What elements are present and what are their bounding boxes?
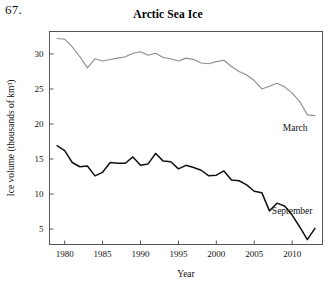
chart-figure: 67. Arctic Sea Ice 51015202530 198019851… xyxy=(0,0,336,287)
x-tick-label: 2000 xyxy=(207,249,226,259)
x-tick-label: 1985 xyxy=(94,249,113,259)
y-axis-ticks: 51015202530 xyxy=(35,49,54,234)
y-tick-label: 30 xyxy=(35,49,45,59)
x-tick-label: 1990 xyxy=(132,249,151,259)
line-chart-plot: 51015202530 1980198519901995200020052010… xyxy=(0,0,336,287)
y-tick-label: 5 xyxy=(39,224,44,234)
series-annotation-march: March xyxy=(283,123,308,133)
series-line-march xyxy=(57,39,315,116)
series-line-september xyxy=(57,146,315,240)
y-tick-label: 25 xyxy=(35,84,45,94)
x-axis-ticks: 1980198519901995200020052010 xyxy=(56,241,302,259)
series-annotation-september: September xyxy=(272,206,313,216)
y-tick-label: 10 xyxy=(35,189,45,199)
x-axis-title: Year xyxy=(177,269,195,279)
x-tick-label: 2005 xyxy=(245,249,264,259)
y-tick-label: 15 xyxy=(35,154,45,164)
y-tick-label: 20 xyxy=(35,119,45,129)
series-annotations: MarchSeptember xyxy=(272,123,313,216)
x-tick-label: 1995 xyxy=(169,249,188,259)
x-tick-label: 2010 xyxy=(283,249,302,259)
y-axis-title: Ice volume (thousands of km³) xyxy=(6,80,17,197)
x-tick-label: 1980 xyxy=(56,249,75,259)
